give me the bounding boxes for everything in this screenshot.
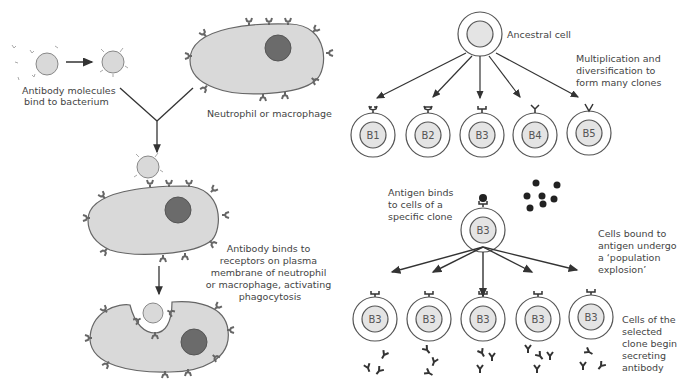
clone-b2: B2 (406, 106, 450, 157)
clone-b1: B1 (351, 106, 395, 157)
secreted-antibodies (364, 345, 606, 378)
label-receptor-bind: Antibody binds to receptors on plasma me… (206, 243, 335, 302)
svg-text:B3: B3 (476, 225, 489, 236)
svg-text:B3: B3 (531, 314, 544, 325)
clone-b5: B5 (567, 104, 611, 155)
svg-text:B3: B3 (422, 314, 435, 325)
label-antibody-bind: Antibody moleculesbind to bacterium (22, 85, 116, 107)
bacterium (36, 53, 58, 75)
right-panel: Ancestral cell Multiplication and divers… (351, 12, 680, 378)
svg-text:B3: B3 (584, 312, 597, 323)
ancestral-cell (458, 12, 502, 56)
immune-response-diagram: Antibody moleculesbind to bacterium Neut… (0, 0, 687, 387)
label-ancestral: Ancestral cell (507, 29, 571, 40)
coated-bacterium-approach (134, 153, 163, 178)
label-explosion: Cells bound to antigen undergo a ‘popula… (598, 228, 680, 275)
coated-bacterium (100, 48, 128, 77)
svg-text:B3: B3 (368, 314, 381, 325)
label-antigen-binds: Antigen binds to cells of a specific clo… (388, 187, 457, 222)
merge-arrows (120, 88, 193, 152)
label-multiplication: Multiplication and diversification to fo… (576, 53, 664, 88)
daughter-cell: B3 (461, 291, 505, 341)
svg-text:B5: B5 (582, 128, 595, 139)
daughter-cell: B3 (353, 291, 397, 341)
clone-b4: B4 (513, 105, 557, 157)
antigen-cluster (524, 180, 561, 212)
label-secreting: Cells of the selected clone begin secret… (622, 314, 680, 373)
svg-text:B2: B2 (421, 130, 434, 141)
clone-b3: B3 (460, 106, 504, 157)
phagocyte-cell (185, 18, 333, 101)
diversification-arrows (377, 53, 578, 98)
antigen (479, 194, 487, 202)
left-panel: Antibody moleculesbind to bacterium Neut… (12, 18, 334, 378)
expansion-arrows (392, 247, 577, 296)
phagocyte-cell-binding (83, 180, 229, 262)
svg-text:B3: B3 (476, 314, 489, 325)
nucleus (265, 35, 291, 61)
daughter-cell: B3 (569, 289, 613, 339)
svg-text:B3: B3 (475, 130, 488, 141)
svg-text:B4: B4 (528, 130, 541, 141)
daughter-cell: B3 (407, 291, 451, 341)
daughter-cell: B3 (516, 291, 560, 341)
selected-clone-b3: B3 (461, 194, 505, 252)
phagocyte-engulfing (85, 302, 234, 378)
engulfed-bacterium (143, 303, 163, 323)
svg-text:B1: B1 (366, 130, 379, 141)
label-phagocyte: Neutrophil or macrophage (207, 108, 332, 119)
